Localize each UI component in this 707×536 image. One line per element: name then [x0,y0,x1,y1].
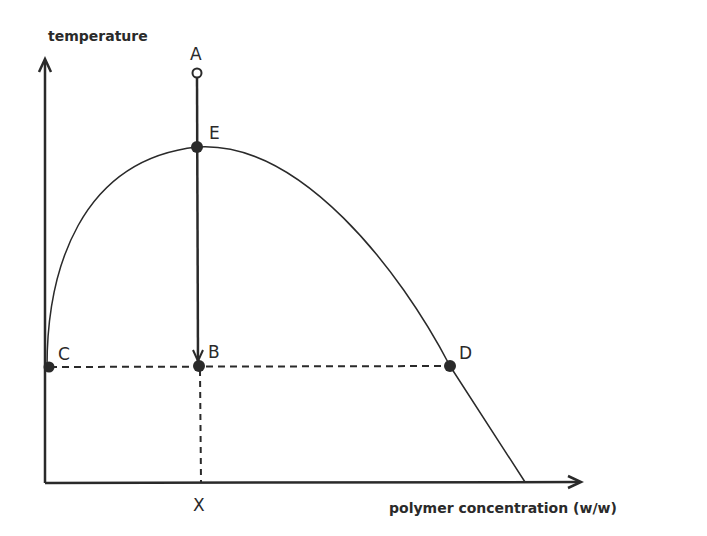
point-b-label: B [208,342,220,362]
x-marker-label: X [193,495,205,515]
point-d-label: D [459,343,472,363]
y-axis-label: temperature [48,28,148,44]
point-b-marker [193,360,205,372]
composition-line-b-x [200,370,201,482]
axes [39,59,581,488]
tie-line-c-d [50,366,450,367]
phase-diagram: temperature polymer concentration (w/w) … [0,0,707,536]
point-a-marker [193,69,202,78]
binodal-curve [47,147,525,482]
point-d-marker [444,360,456,372]
cooling-path [197,78,198,362]
point-e-label: E [209,123,220,143]
point-a-label: A [190,44,202,64]
x-axis-label: polymer concentration (w/w) [389,500,617,516]
x-axis [45,482,580,483]
point-c-label: C [58,344,70,364]
point-e-marker [191,141,203,153]
point-c-marker [44,362,55,373]
